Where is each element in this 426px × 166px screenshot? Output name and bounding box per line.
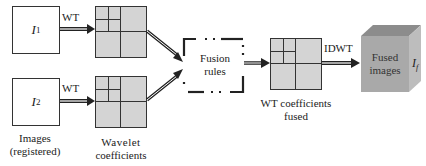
wavelet-caption-line1: Wavelet — [83, 136, 159, 149]
idwt-arrow — [322, 58, 360, 68]
wavelet-coefficients-caption: Wavelet coefficients — [83, 136, 159, 162]
wt-arrow-1 — [60, 24, 95, 34]
fusion-rules-label: Fusion rules — [190, 52, 240, 78]
fusion-rules-line2: rules — [190, 65, 240, 78]
images-caption-line1: Images — [0, 132, 70, 145]
fusion-to-fused-arrow — [244, 58, 270, 68]
wt-coefficients-fused-caption: WT coefficients fused — [255, 97, 337, 123]
images-registered-caption: Images (registered) — [0, 132, 70, 158]
fused-caption-line2: fused — [255, 110, 337, 123]
images-caption-line2: (registered) — [0, 145, 70, 158]
fusion-rules-line1: Fusion — [190, 52, 240, 65]
fused-image-symbol: If — [412, 56, 418, 72]
coefficients-to-fusion-arrow-1 — [147, 31, 183, 62]
fused-images-label: Fused images — [361, 51, 409, 77]
fused-images-line1: Fused — [361, 51, 409, 64]
wt-arrow-2 — [60, 96, 95, 106]
coefficients-to-fusion-arrow-2 — [147, 69, 183, 100]
idwt-label: IDWT — [324, 42, 353, 54]
fused-caption-line1: WT coefficients — [255, 97, 337, 110]
wavelet-caption-line2: coefficients — [83, 149, 159, 162]
fused-images-line2: images — [361, 64, 409, 77]
